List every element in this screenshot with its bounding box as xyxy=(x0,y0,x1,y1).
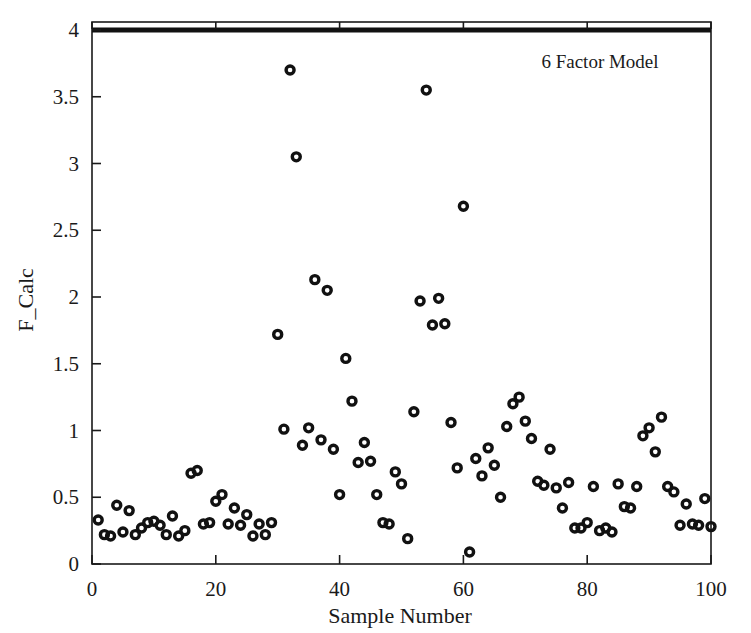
data-point xyxy=(292,153,300,161)
data-point xyxy=(286,66,294,74)
data-point xyxy=(391,468,399,476)
data-point xyxy=(583,519,591,527)
data-point xyxy=(237,521,245,529)
data-point xyxy=(156,521,164,529)
data-point xyxy=(497,493,505,501)
y-axis-title: F_Calc xyxy=(13,268,38,332)
data-point xyxy=(224,520,232,528)
data-point xyxy=(348,397,356,405)
scatter-plot-figure: 00.511.522.533.54 020406080100 F_Calc Sa… xyxy=(0,0,751,633)
data-point xyxy=(682,500,690,508)
data-point xyxy=(701,495,709,503)
data-point xyxy=(119,528,127,536)
data-point xyxy=(608,528,616,536)
data-point xyxy=(373,491,381,499)
data-point xyxy=(639,432,647,440)
data-point xyxy=(670,488,678,496)
data-point xyxy=(695,521,703,529)
data-point xyxy=(484,444,492,452)
y-tick-label: 1 xyxy=(69,419,80,443)
data-point xyxy=(243,511,251,519)
data-point xyxy=(274,330,282,338)
data-point xyxy=(230,504,238,512)
data-point xyxy=(410,408,418,416)
data-point xyxy=(565,479,573,487)
data-point xyxy=(261,531,269,539)
data-point xyxy=(268,519,276,527)
data-point xyxy=(633,483,641,491)
data-point xyxy=(552,484,560,492)
data-point-group xyxy=(94,66,715,556)
x-axis-title: Sample Number xyxy=(328,603,472,628)
x-tick-label: 40 xyxy=(329,577,350,601)
data-point xyxy=(466,548,474,556)
data-point xyxy=(218,491,226,499)
data-point xyxy=(428,321,436,329)
data-point xyxy=(404,535,412,543)
data-point xyxy=(676,521,684,529)
data-point xyxy=(298,441,306,449)
data-point xyxy=(342,354,350,362)
data-point xyxy=(193,467,201,475)
data-point xyxy=(459,202,467,210)
data-point xyxy=(447,418,455,426)
x-tick-label: 80 xyxy=(577,577,598,601)
plot-frame xyxy=(92,22,711,564)
data-point xyxy=(657,413,665,421)
data-point xyxy=(125,507,133,515)
data-point xyxy=(422,86,430,94)
data-point xyxy=(435,294,443,302)
data-point xyxy=(453,464,461,472)
data-point xyxy=(503,422,511,430)
data-point xyxy=(645,424,653,432)
data-point xyxy=(107,532,115,540)
y-tick-label: 3.5 xyxy=(53,85,79,109)
data-point xyxy=(367,457,375,465)
data-point xyxy=(398,480,406,488)
data-point xyxy=(168,512,176,520)
data-point xyxy=(527,435,535,443)
data-point xyxy=(441,320,449,328)
data-point xyxy=(515,393,523,401)
data-point xyxy=(280,425,288,433)
data-point xyxy=(323,286,331,294)
y-tick-label: 4 xyxy=(69,18,80,42)
data-point xyxy=(354,459,362,467)
data-point xyxy=(329,445,337,453)
data-point xyxy=(311,276,319,284)
data-point xyxy=(113,501,121,509)
x-axis-ticks xyxy=(92,22,711,564)
data-point xyxy=(385,520,393,528)
x-tick-label: 60 xyxy=(453,577,474,601)
data-point xyxy=(162,531,170,539)
data-point xyxy=(336,491,344,499)
x-tick-label: 100 xyxy=(695,577,727,601)
y-tick-label: 2 xyxy=(69,285,80,309)
data-point xyxy=(521,417,529,425)
data-point xyxy=(627,504,635,512)
data-point xyxy=(249,532,257,540)
data-point xyxy=(360,439,368,447)
y-axis-tick-labels: 00.511.522.533.54 xyxy=(53,18,80,576)
data-point xyxy=(255,520,263,528)
data-point xyxy=(614,480,622,488)
data-point xyxy=(472,455,480,463)
data-point xyxy=(651,448,659,456)
x-tick-label: 20 xyxy=(205,577,226,601)
x-tick-label: 0 xyxy=(87,577,98,601)
data-point xyxy=(317,436,325,444)
y-tick-label: 0 xyxy=(69,552,80,576)
data-point xyxy=(546,445,554,453)
x-axis-tick-labels: 020406080100 xyxy=(87,577,727,601)
y-axis-ticks xyxy=(92,30,101,564)
data-point xyxy=(478,472,486,480)
y-tick-label: 3 xyxy=(69,152,80,176)
data-point xyxy=(181,527,189,535)
data-point xyxy=(490,461,498,469)
y-tick-label: 2.5 xyxy=(53,218,79,242)
data-point xyxy=(305,424,313,432)
y-tick-label: 0.5 xyxy=(53,485,79,509)
data-point xyxy=(416,297,424,305)
data-point xyxy=(589,483,597,491)
plot-annotation-label: 6 Factor Model xyxy=(541,51,658,72)
